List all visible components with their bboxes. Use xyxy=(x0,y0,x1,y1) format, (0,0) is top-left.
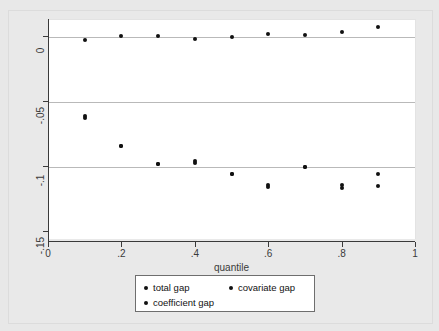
x-axis-tick-label: .2 xyxy=(106,248,136,259)
chart-legend: total gap covariate gap coefficient gap xyxy=(135,275,315,312)
data-point xyxy=(83,116,87,120)
gridline xyxy=(48,167,415,168)
legend-item-total-gap: total gap xyxy=(144,282,189,293)
x-axis-tick-label: 0 xyxy=(33,248,63,259)
x-axis-tick xyxy=(48,242,49,247)
data-point xyxy=(266,185,270,189)
legend-label: total gap xyxy=(153,282,189,293)
legend-label: covariate gap xyxy=(238,282,295,293)
x-axis-tick-label: .6 xyxy=(253,248,283,259)
legend-label: coefficient gap xyxy=(153,297,214,308)
y-axis-tick-label: 0 xyxy=(35,35,46,65)
x-axis-line xyxy=(48,241,415,242)
data-point xyxy=(83,38,87,42)
x-axis-tick xyxy=(268,242,269,247)
data-point xyxy=(340,30,344,34)
data-point xyxy=(376,172,380,176)
data-point xyxy=(156,34,160,38)
legend-item-coefficient-gap: coefficient gap xyxy=(144,297,214,308)
data-point xyxy=(230,35,234,39)
data-point xyxy=(119,144,123,148)
legend-marker-icon xyxy=(229,286,233,290)
x-axis-tick xyxy=(121,242,122,247)
data-point xyxy=(303,33,307,37)
data-point xyxy=(119,34,123,38)
chart-figure: 0-.05-.1-.15 0.2.4.6.81 quantile total g… xyxy=(0,0,439,331)
data-point xyxy=(376,25,380,29)
x-axis-tick xyxy=(195,242,196,247)
gridline xyxy=(48,102,415,103)
data-point xyxy=(230,172,234,176)
plot-area xyxy=(48,19,416,239)
legend-marker-icon xyxy=(144,301,148,305)
data-point xyxy=(193,37,197,41)
data-point xyxy=(266,32,270,36)
data-point xyxy=(340,186,344,190)
data-point xyxy=(303,165,307,169)
data-point xyxy=(193,159,197,163)
y-axis-line xyxy=(48,19,49,242)
legend-item-covariate-gap: covariate gap xyxy=(229,282,295,293)
data-point xyxy=(376,184,380,188)
x-axis-tick xyxy=(342,242,343,247)
y-axis-tick-label: -.1 xyxy=(35,166,46,196)
x-axis-tick-label: .4 xyxy=(180,248,210,259)
x-axis-tick xyxy=(415,242,416,247)
y-axis-tick-label: -.05 xyxy=(35,101,46,131)
x-axis-tick-label: 1 xyxy=(400,248,430,259)
x-axis-title: quantile xyxy=(48,262,415,273)
data-point xyxy=(156,162,160,166)
x-axis-tick-label: .8 xyxy=(327,248,357,259)
legend-marker-icon xyxy=(144,286,148,290)
